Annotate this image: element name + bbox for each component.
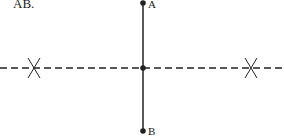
- midpoint: [140, 65, 146, 71]
- label-a: A: [148, 0, 156, 10]
- label-b: B: [148, 125, 155, 137]
- perpendicular-bisector-diagram: AB. A B: [0, 0, 284, 137]
- caption-text: AB.: [13, 0, 34, 11]
- point-a: [140, 0, 146, 6]
- diagram-canvas: AB. A B: [0, 0, 284, 137]
- point-b: [140, 128, 146, 134]
